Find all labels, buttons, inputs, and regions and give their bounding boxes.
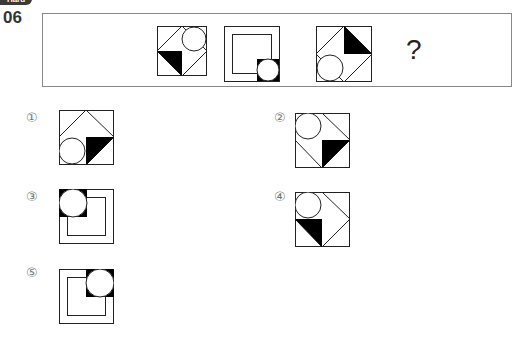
option-label-3[interactable]: ③: [26, 189, 38, 204]
sequence-figure-2: [224, 26, 280, 82]
option-4[interactable]: [295, 192, 350, 247]
difficulty-badge: Hard: [0, 0, 32, 5]
option-2[interactable]: [295, 113, 350, 168]
option-3[interactable]: [59, 189, 114, 244]
option-label-5[interactable]: ⑤: [26, 265, 38, 280]
sequence-figure-3: [316, 26, 372, 82]
option-1[interactable]: [59, 110, 114, 165]
sequence-figure-1: [157, 26, 207, 76]
option-label-1[interactable]: ①: [26, 110, 38, 125]
option-label-4[interactable]: ④: [274, 189, 286, 204]
option-5[interactable]: [59, 269, 114, 324]
option-label-2[interactable]: ②: [274, 110, 286, 125]
question-number: 06: [3, 8, 22, 28]
missing-figure-mark: ?: [406, 34, 422, 66]
